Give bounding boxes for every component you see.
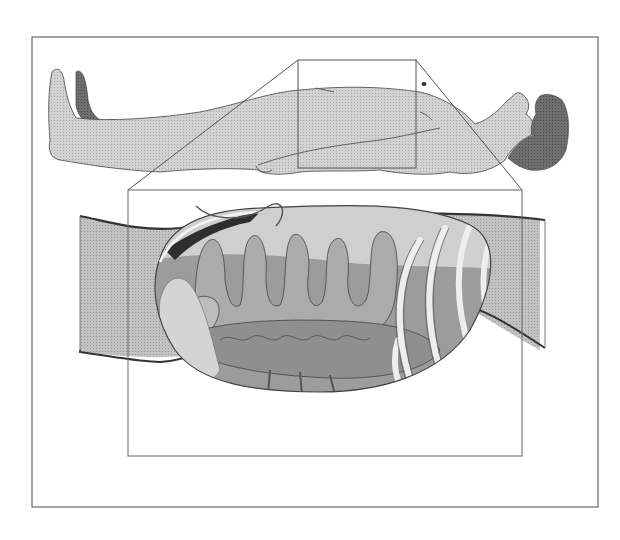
nipple-mark [422, 82, 427, 86]
anatomy-illustration [0, 0, 620, 540]
